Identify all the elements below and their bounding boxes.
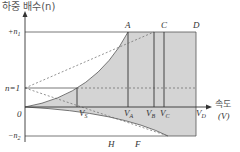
point-h: H: [108, 140, 115, 149]
point-d: D: [193, 21, 200, 30]
flight-envelope-fill: [25, 32, 196, 136]
x-tick-va: VA: [124, 109, 133, 119]
vn-diagram: [0, 0, 240, 152]
x-axis-arrow-icon: [206, 105, 212, 110]
point-f: F: [135, 140, 141, 149]
y-tick-origin: 0: [17, 110, 22, 119]
x-tick-vs: VS: [79, 109, 88, 119]
point-a: A: [125, 21, 131, 30]
y-tick-pos-n1: +n1: [8, 28, 20, 37]
y-tick-neg-n2: −n2: [8, 132, 20, 141]
x-tick-vc: VC: [160, 109, 170, 119]
x-tick-vd: VD: [196, 109, 206, 119]
x-axis-unit: (V): [218, 112, 230, 121]
y-axis-title: 하중 배수(n): [2, 2, 55, 12]
y-tick-n-one: n=1: [5, 84, 20, 93]
point-c: C: [161, 21, 167, 30]
x-axis-title: 속도: [215, 100, 231, 109]
x-tick-vb: VB: [146, 109, 155, 119]
